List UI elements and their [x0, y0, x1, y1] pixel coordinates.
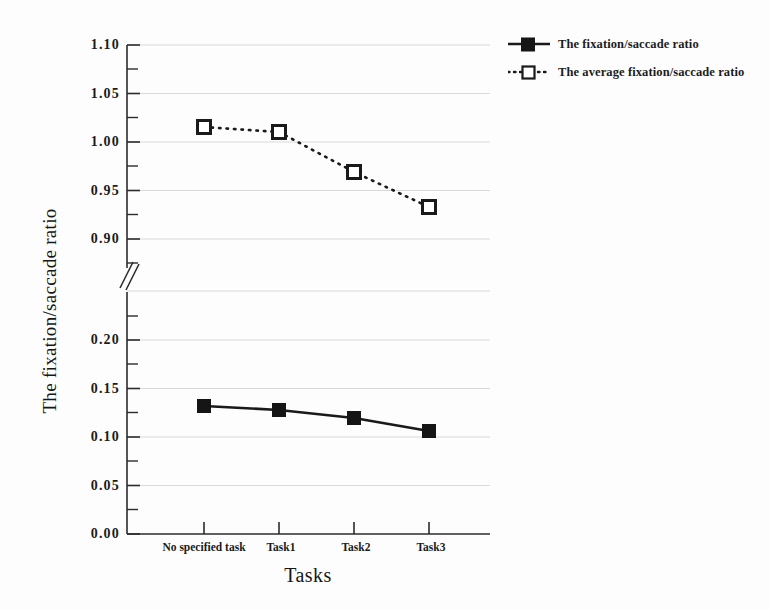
y-tick-label: 0.15 [54, 381, 120, 397]
y-major-ticks-upper [127, 45, 140, 239]
y-axis-tick-labels: 1.10 1.05 1.00 0.95 0.90 0.20 0.15 0.10 … [54, 0, 120, 610]
y-tick-label: 0.10 [54, 429, 120, 445]
x-tick-label-no-specified-task: No specified task [162, 541, 245, 553]
series-fixation-line [204, 406, 429, 431]
y-tick-label: 0.95 [54, 183, 120, 199]
y-minor-ticks-lower [127, 316, 138, 510]
x-axis-title: Tasks [126, 564, 490, 587]
series-fixation-markers [197, 399, 436, 438]
series-average-fixation-saccade-ratio [198, 121, 436, 214]
y-major-ticks-lower [127, 340, 140, 534]
y-minor-ticks-upper [127, 69, 138, 263]
x-tick-label-task1: Task1 [267, 541, 296, 553]
y-tick-label: 0.90 [54, 231, 120, 247]
line-chart: 1.10 1.05 1.00 0.95 0.90 0.20 0.15 0.10 … [0, 0, 770, 610]
y-tick-label: 0.00 [54, 526, 120, 542]
chart-page: 1.10 1.05 1.00 0.95 0.90 0.20 0.15 0.10 … [0, 0, 770, 610]
legend-label: The fixation/saccade ratio [558, 37, 699, 52]
y-axis-title: The fixation/saccade ratio [39, 146, 61, 476]
legend-label: The average fixation/saccade ratio [558, 65, 744, 80]
x-tick-label-task2: Task2 [342, 541, 371, 553]
legend-item-average-fixation-saccade-ratio: The average fixation/saccade ratio [508, 58, 758, 86]
y-tick-label: 1.10 [54, 37, 120, 53]
series-fixation-saccade-ratio [197, 399, 436, 438]
y-tick-label: 1.00 [54, 134, 120, 150]
legend-filled-square-icon [508, 36, 550, 52]
chart-legend: The fixation/saccade ratio The average f… [508, 30, 758, 86]
legend-item-fixation-saccade-ratio: The fixation/saccade ratio [508, 30, 758, 58]
axis-break-icon [120, 262, 139, 290]
legend-open-square-icon [508, 64, 550, 80]
y-tick-label: 0.05 [54, 478, 120, 494]
x-major-ticks [204, 522, 429, 534]
series-average-markers [198, 121, 436, 214]
gridlines-lower [127, 291, 490, 486]
x-tick-label-task3: Task3 [417, 541, 446, 553]
y-tick-label: 1.05 [54, 86, 120, 102]
y-tick-label: 0.20 [54, 332, 120, 348]
series-average-line [204, 127, 429, 207]
